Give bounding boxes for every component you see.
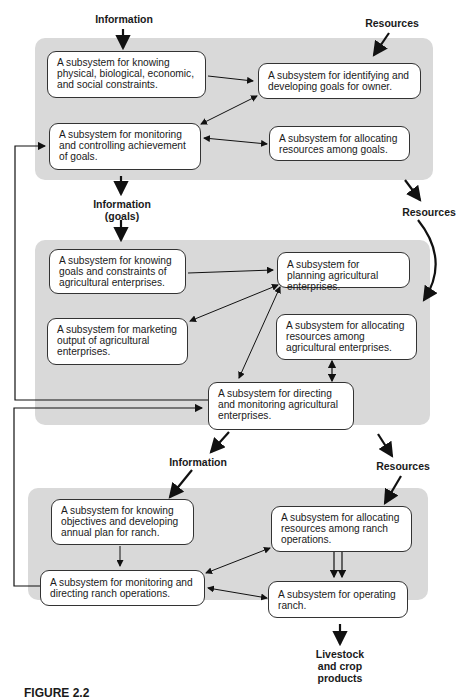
box-knowing-goals: A subsystem for knowing goals and constr… bbox=[49, 249, 186, 294]
label-line: (goals) bbox=[86, 210, 158, 222]
box-knowing-constraints: A subsystem for knowing physical, biolog… bbox=[47, 51, 206, 98]
label-output-products: Livestock and crop products bbox=[310, 648, 370, 684]
box-marketing: A subsystem for marketing output of agri… bbox=[47, 318, 188, 365]
label-line: Information bbox=[86, 198, 158, 210]
label-resources-top: Resources bbox=[362, 17, 422, 29]
label-information-goals: Information (goals) bbox=[86, 198, 158, 222]
box-planning: A subsystem for planning agricultural en… bbox=[277, 252, 410, 288]
box-allocating-enterprises: A subsystem for allocating resources amo… bbox=[276, 314, 417, 360]
box-allocating-goals: A subsystem for allocating resources amo… bbox=[269, 126, 410, 161]
box-operating-ranch: A subsystem for operating ranch. bbox=[268, 581, 408, 618]
label-information-low: Information bbox=[162, 456, 234, 468]
box-knowing-objectives: A subsystem for knowing objectives and d… bbox=[51, 499, 194, 545]
label-line: and crop bbox=[310, 660, 370, 672]
label-line: products bbox=[310, 672, 370, 684]
box-monitoring-ranch: A subsystem for monitoring and directing… bbox=[40, 570, 205, 606]
label-resources-mid: Resources bbox=[398, 206, 460, 218]
box-identifying-goals: A subsystem for identifying and developi… bbox=[258, 63, 421, 99]
box-directing-enterprises: A subsystem for directing and monitoring… bbox=[208, 382, 354, 430]
label-information-top: Information bbox=[88, 13, 160, 25]
label-resources-low: Resources bbox=[372, 460, 434, 472]
figure-caption: FIGURE 2.2 bbox=[24, 686, 89, 700]
box-allocating-ranch: A subsystem for allocating resources amo… bbox=[271, 506, 412, 552]
box-monitoring-goals: A subsystem for monitoring and controlli… bbox=[49, 123, 201, 170]
label-line: Livestock bbox=[310, 648, 370, 660]
